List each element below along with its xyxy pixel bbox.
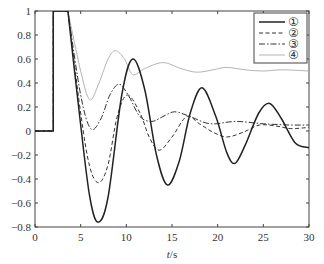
y-tick-label: 0.6 [17, 53, 31, 65]
legend: ①②③④ [254, 13, 307, 63]
legend-label-4: ④ [288, 48, 299, 62]
y-tick-label: −0.2 [11, 149, 31, 161]
line-chart: −0.8−0.6−0.4−0.200.20.40.60.81 051015202… [0, 0, 324, 264]
x-tick-label: 30 [304, 231, 316, 243]
x-tick-label: 20 [212, 231, 224, 243]
x-axis-label: t/s [167, 248, 177, 260]
x-tick-label: 10 [121, 231, 133, 243]
y-tick-label: 1 [26, 5, 32, 17]
y-tick-label: 0 [26, 125, 32, 137]
y-tick-label: −0.4 [11, 173, 31, 185]
x-tick-label: 25 [258, 231, 270, 243]
x-tick-label: 0 [32, 231, 38, 243]
y-tick-label: 0.4 [17, 77, 31, 89]
y-tick-label: −0.6 [11, 197, 31, 209]
x-axis-label-unit: /s [170, 248, 177, 260]
x-tick-label: 15 [167, 231, 179, 243]
y-tick-label: −0.8 [11, 221, 31, 233]
x-tick-label: 5 [78, 231, 84, 243]
y-tick-label: 0.8 [17, 29, 31, 41]
y-tick-label: 0.2 [17, 101, 31, 113]
legend-box [254, 13, 307, 63]
